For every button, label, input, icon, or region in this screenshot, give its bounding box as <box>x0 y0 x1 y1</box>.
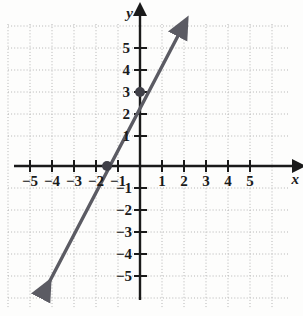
y-tick-label-neg5: −5 <box>116 268 132 284</box>
plotted-line <box>43 32 180 294</box>
y-tick-label-neg1: −1 <box>116 180 132 196</box>
coordinate-plane-graph: −5 −4 −3 −2 −1 1 2 3 4 5 5 4 3 2 1 −1 −2… <box>0 0 303 316</box>
data-point-x-intercept <box>102 161 112 171</box>
graph-canvas: −5 −4 −3 −2 −1 1 2 3 4 5 5 4 3 2 1 −1 −2… <box>0 0 303 316</box>
x-tick-label-neg2: −2 <box>88 173 104 189</box>
y-tick-label-pos4: 4 <box>123 62 131 78</box>
x-tick-label-pos2: 2 <box>180 173 188 189</box>
x-axis-label: x <box>291 171 300 187</box>
x-tick-label-pos5: 5 <box>246 173 254 189</box>
x-tick-label-pos3: 3 <box>202 173 210 189</box>
x-tick-label-pos4: 4 <box>224 173 232 189</box>
y-tick-label-neg4: −4 <box>116 246 133 262</box>
y-tick-label-pos3: 3 <box>123 84 131 100</box>
x-tick-label-pos1: 1 <box>158 173 166 189</box>
data-point-y-intercept <box>135 87 145 97</box>
y-tick-label-pos1: 1 <box>123 128 131 144</box>
y-tick-label-pos2: 2 <box>123 106 131 122</box>
y-tick-label-neg2: −2 <box>116 202 132 218</box>
x-tick-label-neg4: −4 <box>44 173 61 189</box>
y-tick-label-neg3: −3 <box>116 224 132 240</box>
y-tick-label-pos5: 5 <box>123 40 131 56</box>
x-tick-label-neg5: −5 <box>22 173 38 189</box>
y-axis-label: y <box>124 5 133 21</box>
x-tick-label-neg3: −3 <box>66 173 82 189</box>
